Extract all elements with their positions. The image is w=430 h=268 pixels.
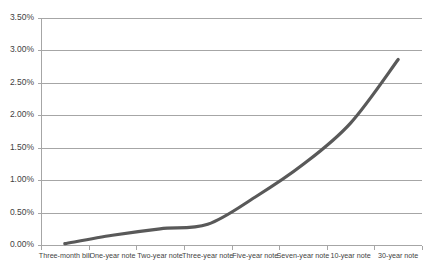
x-axis-line [41, 245, 422, 246]
y-axis-tick-mark [38, 115, 42, 116]
x-axis-tick-mark [422, 246, 423, 250]
gridline [41, 50, 422, 51]
x-axis-category-label: Three-month bill [39, 252, 91, 260]
x-axis-category-label: Three-year note [182, 252, 233, 260]
gridline [41, 148, 422, 149]
x-axis-tick-mark [89, 246, 90, 250]
y-axis-tick-label: 1.00% [0, 175, 34, 184]
gridline [41, 213, 422, 214]
y-axis-tick-label: 3.00% [0, 45, 34, 54]
gridline [41, 83, 422, 84]
y-axis-tick-mark [38, 148, 42, 149]
x-axis-tick-mark [327, 246, 328, 250]
y-axis-tick-label: 3.50% [0, 13, 34, 22]
gridlines [0, 18, 430, 245]
x-axis-category-label: Five-year note [232, 252, 278, 260]
x-axis-tick-mark [279, 246, 280, 250]
y-axis-tick-label: 0.50% [0, 208, 34, 217]
yield-curve-chart: 0.00%0.50%1.00%1.50%2.00%2.50%3.00%3.50%… [0, 0, 430, 268]
x-axis-category-label: 30-year note [378, 252, 418, 260]
gridline [41, 18, 422, 19]
x-axis-category-label: 10-year note [330, 252, 370, 260]
y-axis-tick-label: 2.00% [0, 110, 34, 119]
x-axis-tick-mark [41, 246, 42, 250]
x-axis-category-label: Seven-year note [277, 252, 330, 260]
gridline [41, 115, 422, 116]
y-axis-tick-mark [38, 18, 42, 19]
x-axis-tick-mark [232, 246, 233, 250]
y-axis-tick-label: 1.50% [0, 143, 34, 152]
y-axis-tick-label: 2.50% [0, 78, 34, 87]
y-axis-tick-mark [38, 213, 42, 214]
y-axis-tick-label: 0.00% [0, 240, 34, 249]
y-axis-tick-mark [38, 83, 42, 84]
x-axis-category-label: One-year note [89, 252, 135, 260]
y-axis-tick-mark [38, 180, 42, 181]
x-axis-tick-mark [374, 246, 375, 250]
x-axis-tick-mark [136, 246, 137, 250]
gridline [41, 180, 422, 181]
y-axis-tick-mark [38, 50, 42, 51]
x-axis-tick-mark [184, 246, 185, 250]
x-axis-category-label: Two-year note [137, 252, 183, 260]
